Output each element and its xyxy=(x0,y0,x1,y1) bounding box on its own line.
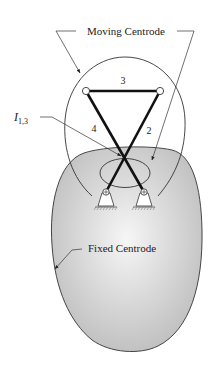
centrode-diagram: Moving Centrode 3 4 2 I1,3 Fixed Centrod… xyxy=(0,0,218,371)
fixed-centrode-label: Fixed Centrode xyxy=(88,242,156,254)
moving-centrode-label: Moving Centrode xyxy=(87,25,165,37)
moving-centrode-leader-left xyxy=(56,31,80,73)
link-3-label: 3 xyxy=(121,75,126,86)
pin-right xyxy=(156,87,163,94)
instant-center-label: I1,3 xyxy=(13,110,28,126)
pin-left xyxy=(82,87,89,94)
link-4-label: 4 xyxy=(92,123,97,134)
link-2-label: 2 xyxy=(147,125,152,136)
instant-center-sub: 1,3 xyxy=(18,117,28,126)
